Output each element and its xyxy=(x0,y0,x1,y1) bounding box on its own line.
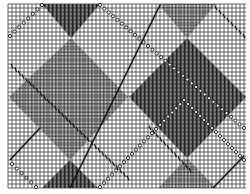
diamond-dotted-bottom-right xyxy=(158,158,216,188)
diamond-dark-top xyxy=(42,4,100,38)
dash-line-b xyxy=(215,6,245,38)
knitting-chart xyxy=(0,0,250,194)
circle-line-a xyxy=(8,3,43,37)
diamond-dotted-top-right xyxy=(158,4,216,38)
